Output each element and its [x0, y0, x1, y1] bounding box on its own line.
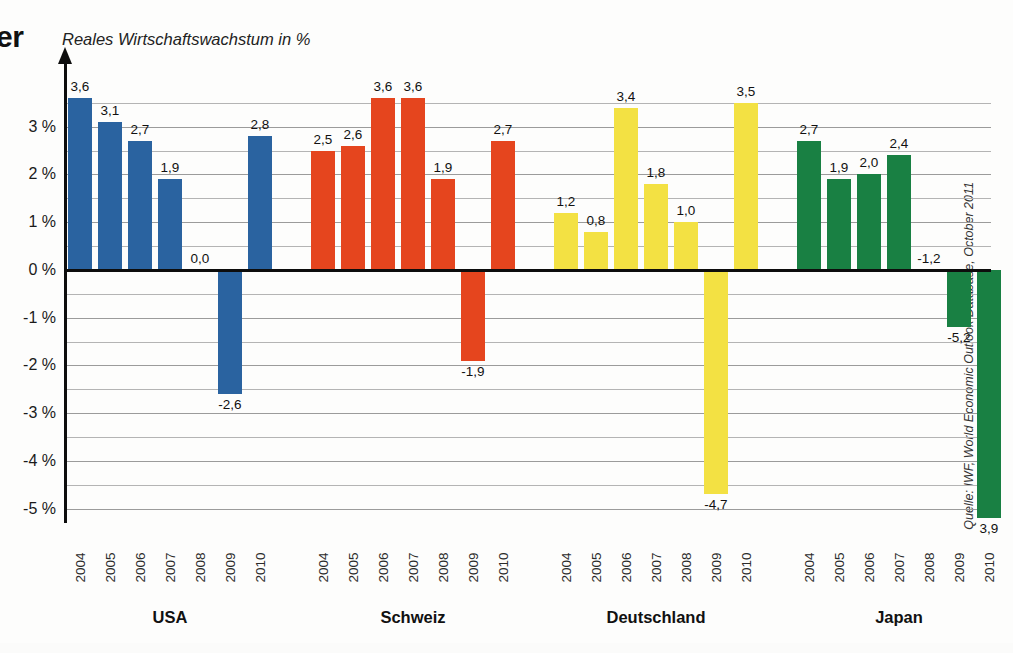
gridline	[66, 365, 991, 366]
year-label: 2009	[466, 545, 481, 591]
bar	[491, 141, 515, 270]
bar	[704, 270, 728, 494]
year-label: 2005	[589, 545, 604, 591]
gridline	[66, 389, 991, 390]
bar-value-label: -5,2	[938, 330, 980, 345]
gridline	[66, 509, 991, 510]
group-label: Schweiz	[293, 608, 533, 627]
chart-page: er Reales Wirtschaftswachstum in % Quell…	[0, 0, 1013, 653]
gridline	[66, 437, 991, 438]
bar	[218, 270, 242, 394]
bar	[827, 179, 851, 270]
bar	[371, 98, 395, 270]
bar-value-label: -4,7	[695, 497, 737, 512]
chart-axis-title: Reales Wirtschaftswachstum in %	[62, 30, 310, 49]
y-axis-arrow-icon	[58, 47, 72, 64]
bar	[431, 179, 455, 270]
zero-baseline	[66, 269, 991, 272]
bar	[947, 270, 971, 327]
year-label: 2009	[952, 545, 967, 591]
bar	[341, 146, 365, 270]
year-label: 2006	[133, 545, 148, 591]
year-label: 2009	[709, 545, 724, 591]
year-label: 2004	[559, 545, 574, 591]
paper-edge	[0, 643, 1013, 653]
y-tick-label: -5 %	[23, 500, 56, 518]
bar-value-label: 3,4	[605, 89, 647, 104]
bar-value-label: 3,6	[392, 79, 434, 94]
bar-value-label: 1,9	[422, 160, 464, 175]
bar-value-label: 3,5	[725, 84, 767, 99]
bar-value-label: 2,8	[239, 117, 281, 132]
gridline	[66, 103, 991, 104]
bar-value-label: -1,2	[908, 251, 950, 266]
bar	[248, 136, 272, 270]
bar	[614, 108, 638, 270]
bar-value-label: 2,0	[848, 155, 890, 170]
gridline	[66, 198, 991, 199]
bar-value-label: -2,6	[209, 397, 251, 412]
bar-value-label: 2,7	[119, 122, 161, 137]
bar	[461, 270, 485, 361]
bar	[977, 270, 1001, 518]
bar-value-label: 3,9	[968, 521, 1010, 536]
y-axis-line	[64, 61, 67, 523]
y-tick-label: 2 %	[28, 165, 56, 183]
gridline	[66, 246, 991, 247]
year-label: 2008	[193, 545, 208, 591]
year-label: 2005	[346, 545, 361, 591]
gridline	[66, 127, 991, 128]
year-label: 2007	[406, 545, 421, 591]
gridline	[66, 318, 991, 319]
year-label: 2010	[739, 545, 754, 591]
y-tick-label: -3 %	[23, 404, 56, 422]
gridline	[66, 413, 991, 414]
y-tick-label: 0 %	[28, 261, 56, 279]
year-label: 2008	[679, 545, 694, 591]
gridline	[66, 294, 991, 295]
year-label: 2007	[649, 545, 664, 591]
gridline	[66, 151, 991, 152]
year-label: 2007	[892, 545, 907, 591]
bar-value-label: 3,6	[59, 79, 101, 94]
y-tick-label: -2 %	[23, 356, 56, 374]
year-label: 2005	[832, 545, 847, 591]
year-label: 2008	[436, 545, 451, 591]
bar-value-label: 2,6	[332, 127, 374, 142]
bar	[311, 151, 335, 270]
y-tick-label: -1 %	[23, 309, 56, 327]
bar-value-label: 2,4	[878, 136, 920, 151]
y-tick-label: -4 %	[23, 452, 56, 470]
group-label: USA	[50, 608, 290, 627]
bar	[584, 232, 608, 270]
bar	[674, 222, 698, 270]
bar-value-label: 2,7	[788, 122, 830, 137]
bar-value-label: 1,2	[545, 194, 587, 209]
year-label: 2008	[922, 545, 937, 591]
bar-value-label: 0,8	[575, 213, 617, 228]
bar-value-label: 0,0	[179, 251, 221, 266]
y-tick-label: 3 %	[28, 118, 56, 136]
year-label: 2005	[103, 545, 118, 591]
year-label: 2006	[619, 545, 634, 591]
group-label: Japan	[779, 608, 1013, 627]
bar-value-label: -1,9	[452, 364, 494, 379]
gridline	[66, 485, 991, 486]
bar	[401, 98, 425, 270]
year-label: 2006	[376, 545, 391, 591]
bar-value-label: 3,1	[89, 103, 131, 118]
year-label: 2010	[496, 545, 511, 591]
year-label: 2004	[802, 545, 817, 591]
group-label: Deutschland	[536, 608, 776, 627]
year-label: 2006	[862, 545, 877, 591]
year-label: 2004	[316, 545, 331, 591]
headline-fragment: er	[0, 22, 23, 52]
bar	[644, 184, 668, 270]
bar-value-label: 1,0	[665, 203, 707, 218]
bar	[68, 98, 92, 270]
year-label: 2010	[982, 545, 997, 591]
plot-area: 3 %2 %1 %0 %-1 %-2 %-3 %-4 %-5 % 3,63,12…	[66, 79, 991, 523]
bar	[98, 122, 122, 270]
gridline	[66, 222, 991, 223]
bar	[734, 103, 758, 270]
